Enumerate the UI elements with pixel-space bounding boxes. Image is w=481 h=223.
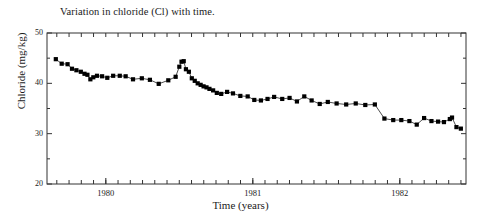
- data-series: [54, 57, 463, 131]
- x-tick-label: 1980: [86, 188, 126, 198]
- y-tick-label: 30: [19, 129, 43, 138]
- x-tick-label: 1981: [233, 188, 273, 198]
- x-tick-label: 1982: [380, 188, 420, 198]
- chart-figure: Variation in chloride (Cl) with time. Ch…: [0, 0, 481, 223]
- y-tick-label: 50: [19, 28, 43, 37]
- axis-ticks: [47, 33, 466, 184]
- y-tick-label: 40: [19, 78, 43, 87]
- axes-frame: [47, 33, 466, 184]
- y-tick-label: 20: [19, 179, 43, 188]
